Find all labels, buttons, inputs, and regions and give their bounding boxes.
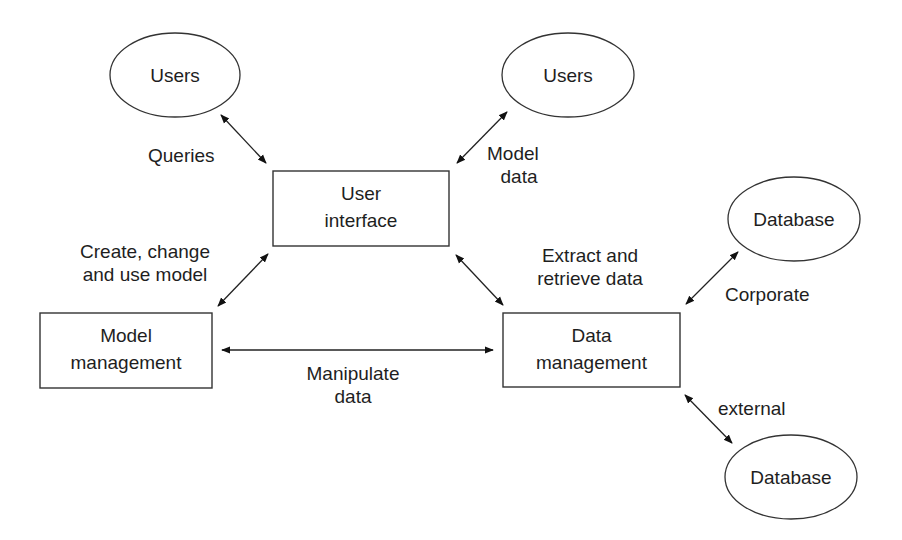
database-corporate-label: Database [728, 206, 860, 233]
queries-label: Queries [148, 144, 215, 167]
model-management-line1: Model [40, 322, 212, 349]
data-management-label: Data management [503, 322, 680, 376]
model-data-label: Model data [487, 142, 551, 188]
users-left-label: Users [110, 62, 240, 89]
model-management-line2: management [40, 349, 212, 376]
manipulate-data-line2: data [290, 385, 416, 408]
model-data-line2: data [487, 165, 551, 188]
create-change-label: Create, change and use model [66, 240, 224, 286]
corporate-label: Corporate [725, 283, 810, 306]
user-interface-line1: User [273, 180, 449, 207]
create-change-line2: and use model [66, 263, 224, 286]
create-change-line1: Create, change [66, 240, 224, 263]
create-change-arrow [218, 254, 268, 306]
extract-retrieve-line1: Extract and [521, 244, 659, 267]
model-data-line1: Model [487, 142, 551, 165]
user-interface-line2: interface [273, 207, 449, 234]
data-management-line1: Data [503, 322, 680, 349]
manipulate-data-line1: Manipulate [290, 362, 416, 385]
database-external-label: Database [725, 464, 857, 491]
queries-arrow [221, 115, 266, 163]
extract-retrieve-line2: retrieve data [521, 267, 659, 290]
model-management-label: Model management [40, 322, 212, 376]
external-label: external [718, 397, 786, 420]
extract-retrieve-arrow [456, 255, 503, 305]
manipulate-data-label: Manipulate data [290, 362, 416, 408]
user-interface-label: User interface [273, 180, 449, 234]
extract-retrieve-label: Extract and retrieve data [521, 244, 659, 290]
data-management-line2: management [503, 349, 680, 376]
users-right-label: Users [502, 62, 634, 89]
